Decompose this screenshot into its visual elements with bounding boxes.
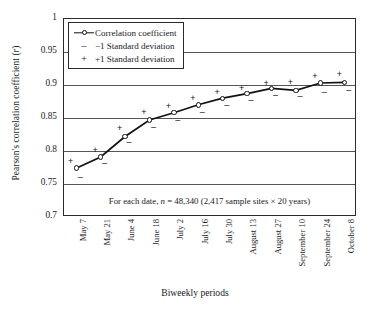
minus-sd-marker: –: [297, 92, 302, 101]
legend-item-minus-sd: – −1 Standard deviation: [73, 39, 177, 52]
minus-sd-marker: –: [200, 108, 205, 117]
minus-sd-marker: –: [273, 90, 278, 99]
x-tick-label: July 16: [201, 219, 210, 244]
minus-glyph: –: [82, 41, 87, 51]
data-point-marker: [98, 154, 103, 159]
x-tick-label: September 24: [323, 219, 332, 267]
plus-sd-marker: +: [312, 72, 317, 81]
x-tick-label: September 10: [298, 219, 307, 267]
x-tick-label: June 18: [152, 219, 161, 246]
x-tick-label: October 8: [347, 219, 356, 253]
legend-item-correlation: Correlation coefficient: [73, 26, 177, 39]
data-point-marker: [293, 88, 298, 93]
plus-sd-marker: +: [263, 79, 268, 88]
data-point-marker: [269, 86, 274, 91]
legend-minus-glyph-icon: –: [73, 40, 95, 52]
sample-size-annotation: For each date, n = 48,340 (2,417 sample …: [63, 196, 356, 206]
gridline: [64, 85, 355, 86]
annotation-suffix: = 48,340 (2,417 sample sites × 20 years): [165, 196, 310, 206]
y-tick-label: 0.9: [17, 79, 57, 88]
data-point-marker: [171, 110, 176, 115]
chart-figure: Pearson's correlation coefficient (r) 0.…: [0, 0, 390, 311]
x-tick-label: May 7: [79, 219, 88, 241]
plus-sd-marker: +: [190, 93, 195, 102]
legend-label-plus-sd: +1 Standard deviation: [95, 54, 175, 64]
plus-glyph: +: [81, 54, 87, 64]
annotation-prefix: For each date,: [109, 196, 161, 206]
minus-sd-marker: –: [224, 100, 229, 109]
gridline: [64, 118, 355, 119]
x-tick-label: July 2: [176, 219, 185, 240]
plus-sd-marker: +: [92, 145, 97, 154]
y-tick-label: 1: [17, 13, 57, 22]
y-tick-label: 0.7: [17, 211, 57, 220]
x-tick-label: August 13: [249, 219, 258, 255]
legend-label-correlation: Correlation coefficient: [95, 28, 177, 38]
legend-line-marker-icon: [73, 27, 95, 39]
x-tick-label: June 4: [127, 219, 136, 241]
minus-sd-marker: –: [322, 87, 327, 96]
minus-sd-marker: –: [151, 123, 156, 132]
data-point-marker: [122, 134, 127, 139]
chart-legend: Correlation coefficient – −1 Standard de…: [68, 22, 184, 69]
gridline: [64, 184, 355, 185]
plus-sd-marker: +: [166, 102, 171, 111]
y-tick-label: 0.85: [17, 112, 57, 121]
minus-sd-marker: –: [127, 138, 132, 147]
y-tick-label: 0.75: [17, 178, 57, 187]
minus-sd-marker: –: [249, 96, 254, 105]
legend-plus-glyph-icon: +: [73, 53, 95, 65]
x-tick-label: August 27: [274, 219, 283, 255]
legend-item-plus-sd: + +1 Standard deviation: [73, 52, 177, 65]
legend-label-minus-sd: −1 Standard deviation: [95, 41, 175, 51]
gridline: [64, 151, 355, 152]
x-tick-label: July 30: [225, 219, 234, 244]
plus-sd-marker: +: [117, 123, 122, 132]
data-point-marker: [196, 102, 201, 107]
minus-sd-marker: –: [346, 86, 351, 95]
x-axis-title: Biweekly periods: [0, 287, 390, 298]
y-tick-label: 0.8: [17, 145, 57, 154]
data-point-marker: [74, 165, 79, 170]
y-tick-label: 0.95: [17, 46, 57, 55]
minus-sd-marker: –: [175, 115, 180, 124]
minus-sd-marker: –: [102, 158, 107, 167]
data-point-marker: [220, 96, 225, 101]
plus-sd-marker: +: [215, 88, 220, 97]
x-tick-label: May 21: [103, 219, 112, 246]
minus-sd-marker: –: [78, 172, 83, 181]
plus-sd-marker: +: [141, 108, 146, 117]
plus-sd-marker: +: [68, 156, 73, 165]
plus-sd-marker: +: [337, 70, 342, 79]
data-point-marker: [244, 91, 249, 96]
